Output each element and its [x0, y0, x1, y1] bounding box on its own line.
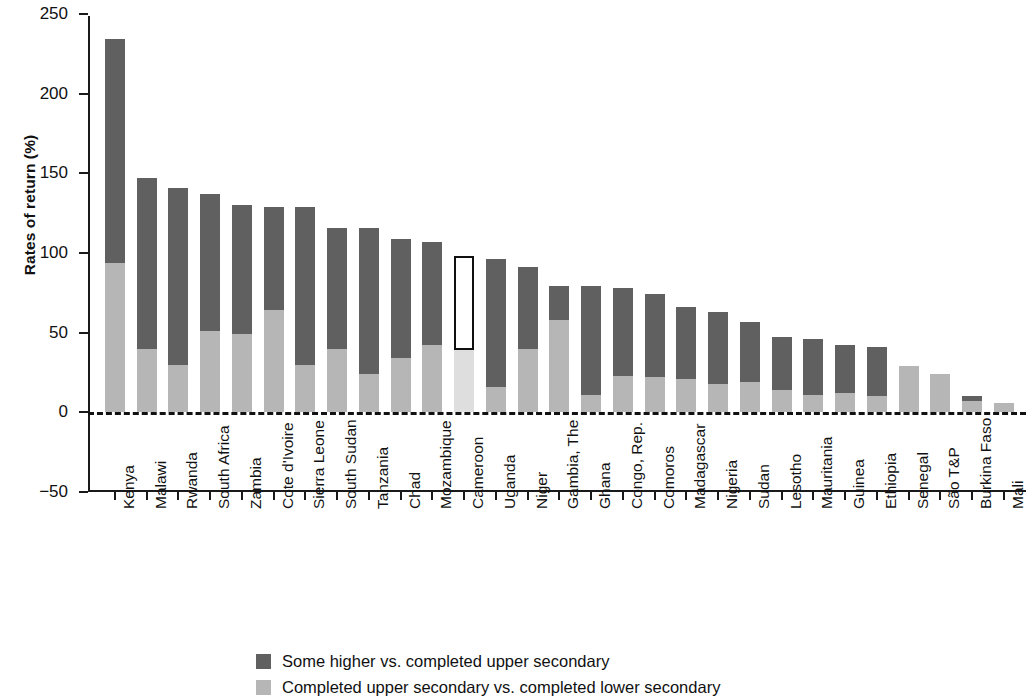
bar-segment-lower	[740, 382, 760, 412]
bar-segment-upper	[486, 259, 506, 386]
y-axis-tick	[79, 93, 88, 95]
y-axis-tick	[79, 411, 88, 413]
legend-item: Some higher vs. completed upper secondar…	[256, 648, 956, 674]
y-axis-tick-label: 0	[14, 403, 68, 420]
x-axis-tick	[812, 492, 814, 500]
bar-segment-upper	[676, 307, 696, 379]
bar-segment-upper	[835, 345, 855, 393]
y-axis-tick-label: 150	[14, 164, 68, 181]
x-axis-tick-label: South Africa	[216, 425, 232, 509]
x-axis-tick	[590, 492, 592, 500]
x-axis-tick-label: Niger	[534, 472, 550, 509]
x-axis-tick	[685, 492, 687, 500]
x-axis-tick-label: Guinea	[851, 459, 867, 509]
bar-segment-upper	[359, 228, 379, 375]
bar-segment-upper	[645, 294, 665, 377]
bar-segment-upper	[168, 188, 188, 365]
legend-item: Completed upper secondary vs. completed …	[256, 674, 956, 700]
bar-segment-upper	[264, 207, 284, 311]
x-axis-tick-label: Ethiopia	[883, 453, 899, 509]
bar-segment-lower	[454, 350, 474, 412]
bar-segment-lower	[137, 349, 157, 413]
bar-segment-upper	[867, 347, 887, 396]
bar-segment-upper	[962, 396, 982, 401]
x-axis-tick-label: Mozambique	[438, 420, 454, 509]
x-axis-tick	[431, 492, 433, 500]
bar-segment-lower	[200, 331, 220, 412]
bar	[994, 14, 1014, 492]
bar-segment-upper	[232, 205, 252, 334]
legend-item-label: Some higher vs. completed upper secondar…	[282, 652, 609, 671]
x-axis-tick	[273, 492, 275, 500]
x-axis-tick-label: Congo, Rep.	[629, 422, 645, 509]
y-axis-tick	[79, 332, 88, 334]
bar-segment-lower	[581, 395, 601, 413]
x-axis-tick	[177, 492, 179, 500]
x-axis-tick-label: Zambia	[248, 457, 264, 509]
bar	[454, 14, 474, 492]
bar-segment-lower	[422, 345, 442, 412]
x-axis-tick	[844, 492, 846, 500]
bar-segment-lower	[930, 374, 950, 412]
plot-area	[88, 14, 1026, 492]
x-axis-tick-label: Madagascar	[692, 424, 708, 509]
bar	[359, 14, 379, 492]
bar-segment-upper	[581, 286, 601, 394]
bar-segment-lower	[359, 374, 379, 412]
y-axis-tick-label: 100	[14, 244, 68, 261]
x-axis-tick	[114, 492, 116, 500]
bar-segment-lower	[835, 393, 855, 412]
x-axis-tick-label: Mali	[1010, 481, 1026, 509]
x-axis-tick	[717, 492, 719, 500]
x-axis-tick-label: Sudan	[756, 464, 772, 509]
y-axis-tick	[79, 13, 88, 15]
chart-legend: Some higher vs. completed upper secondar…	[256, 648, 956, 700]
x-axis-tick	[400, 492, 402, 500]
x-axis-tick	[908, 492, 910, 500]
bar-segment-upper	[137, 178, 157, 348]
y-axis-tick-label: −50	[14, 483, 68, 500]
bar	[708, 14, 728, 492]
bar-segment-upper	[549, 286, 569, 319]
bar-segment-lower	[708, 384, 728, 413]
bar-segment-upper	[772, 337, 792, 390]
x-axis-tick	[654, 492, 656, 500]
x-axis-tick-label: Mauritania	[819, 437, 835, 509]
legend-swatch-icon	[256, 654, 271, 669]
bar-segment-lower	[549, 320, 569, 412]
x-axis-tick-label: Comoros	[661, 446, 677, 509]
bar-segment-upper	[200, 194, 220, 331]
x-axis-tick	[241, 492, 243, 500]
bar-segment-upper	[327, 228, 347, 349]
bar-segment-upper	[518, 267, 538, 348]
bar	[867, 14, 887, 492]
bar-segment-upper	[454, 256, 474, 350]
bar	[105, 14, 125, 492]
bar-segment-upper	[740, 322, 760, 383]
bar-segment-upper	[803, 339, 823, 395]
bar-segment-upper	[295, 207, 315, 365]
bar-segment-lower	[391, 358, 411, 412]
y-axis-tick	[79, 252, 88, 254]
bar-segment-lower	[327, 349, 347, 413]
y-axis-line	[88, 16, 90, 492]
bar-segment-lower	[867, 396, 887, 412]
x-axis-tick	[463, 492, 465, 500]
bar	[200, 14, 220, 492]
legend-item-label: Completed upper secondary vs. completed …	[282, 678, 720, 697]
bar	[137, 14, 157, 492]
x-axis-tick-label: Lesotho	[788, 454, 804, 509]
bar	[232, 14, 252, 492]
bar	[835, 14, 855, 492]
x-axis-tick-label: Senegal	[915, 452, 931, 509]
x-axis-tick	[749, 492, 751, 500]
x-axis-tick-label: Nigeria	[724, 460, 740, 509]
legend-swatch-icon	[256, 680, 271, 695]
bar	[168, 14, 188, 492]
x-axis-tick	[304, 492, 306, 500]
zero-reference-line	[88, 412, 1026, 415]
bar	[581, 14, 601, 492]
bar-segment-lower	[772, 390, 792, 412]
x-axis-tick-label: Cameroon	[470, 437, 486, 509]
bar	[740, 14, 760, 492]
